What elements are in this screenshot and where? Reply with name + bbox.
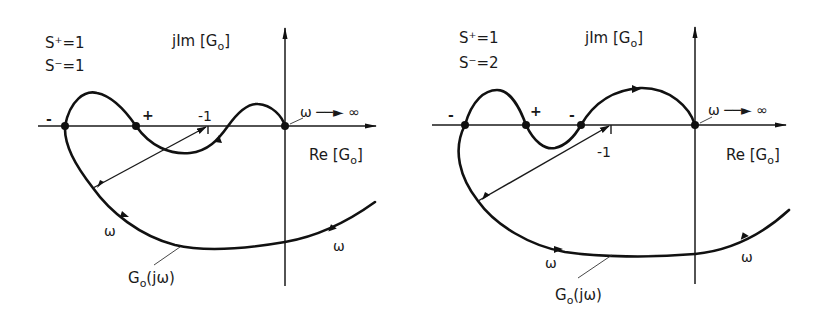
origin-dot: [691, 121, 699, 129]
nyquist-curve-lower: [459, 125, 789, 256]
im-axis-label: jIm [Go]: [584, 29, 643, 50]
crossing-dot: [577, 121, 585, 129]
crossing-dot: [522, 121, 530, 129]
nyquist-curve-upper: [465, 88, 695, 148]
radius-vector-arrow: [93, 127, 206, 188]
minus-one-label: -1: [597, 144, 611, 160]
omega-to-infinity-label: ω ──► ∞: [708, 102, 768, 118]
s-plus-label: S⁺=1: [459, 29, 499, 47]
omega-to-infinity-label: ω ──► ∞: [300, 104, 360, 120]
crossing-sign-minus-2: -: [569, 107, 575, 123]
crossing-sign-minus: -: [448, 107, 454, 123]
left-nyquist-plot: S⁺=1 S⁻=1 jIm [Go] Re [Go] -1 ω ──► ∞ - …: [38, 28, 376, 290]
omega-label-right: ω: [741, 249, 753, 265]
curve-label: Go(jω): [128, 269, 175, 290]
curve-label: Go(jω): [555, 286, 602, 307]
vector-tail-arrow-icon: [97, 180, 104, 188]
vector-tail-arrow-icon: [482, 192, 490, 200]
curve-label-leader: [154, 247, 180, 265]
s-minus-label: S⁻=1: [45, 57, 85, 75]
crossing-dot: [461, 121, 469, 129]
origin-dot: [281, 122, 289, 130]
crossing-dot: [61, 122, 69, 130]
s-minus-label: S⁻=2: [459, 54, 499, 72]
omega-label-left: ω: [545, 255, 557, 271]
direction-arrow-icon: [632, 85, 641, 93]
direction-arrow-icon: [120, 211, 129, 217]
crossing-sign-minus: -: [46, 111, 52, 127]
nyquist-figure: S⁺=1 S⁻=1 jIm [Go] Re [Go] -1 ω ──► ∞ - …: [0, 0, 838, 323]
re-axis-label: Re [Go]: [309, 146, 363, 167]
crossing-sign-plus: +: [142, 107, 154, 123]
radius-vector-arrow: [478, 126, 609, 201]
re-axis-label: Re [Go]: [726, 146, 780, 167]
crossing-sign-plus: +: [530, 103, 542, 119]
omega-label-left: ω: [104, 223, 116, 239]
crossing-dot: [132, 122, 140, 130]
omega-label-right: ω: [333, 238, 345, 254]
im-axis-label: jIm [Go]: [171, 32, 230, 53]
s-plus-label: S⁺=1: [45, 34, 85, 52]
right-nyquist-plot: S⁺=1 S⁻=2 jIm [Go] Re [Go] -1 ω ──► ∞ - …: [432, 27, 789, 307]
curve-label-leader: [578, 255, 612, 278]
minus-one-label: -1: [198, 108, 212, 124]
